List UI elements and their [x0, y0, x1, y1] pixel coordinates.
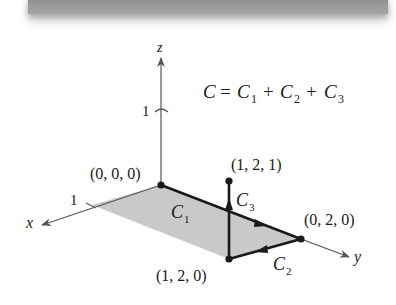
point-label-origin: (0, 0, 0) — [90, 165, 141, 183]
c3-arrow-icon — [225, 198, 233, 210]
svg-text:2: 2 — [286, 265, 292, 277]
curve-label-c2: C 2 — [273, 254, 292, 277]
point-label-020: (0, 2, 0) — [304, 211, 355, 229]
point-label-121: (1, 2, 1) — [231, 156, 282, 174]
svg-text:+: + — [306, 81, 317, 102]
y-axis — [301, 239, 349, 257]
point-origin — [157, 181, 164, 188]
svg-text:3: 3 — [338, 92, 344, 106]
svg-text:3: 3 — [249, 201, 255, 213]
svg-text:1: 1 — [251, 92, 257, 106]
x-tick-label: 1 — [70, 192, 78, 208]
z-axis-label: z — [156, 40, 163, 55]
svg-text:C: C — [324, 81, 337, 102]
svg-text:C: C — [171, 202, 184, 222]
point-121 — [225, 177, 232, 184]
svg-text:C: C — [236, 190, 249, 210]
y-axis-label: y — [352, 248, 362, 266]
z-tick-label: 1 — [142, 103, 150, 119]
c1-arrow-icon — [254, 219, 267, 227]
svg-text:=: = — [220, 81, 231, 102]
svg-text:C: C — [280, 81, 293, 102]
svg-text:2: 2 — [294, 92, 300, 106]
svg-text:C: C — [237, 81, 250, 102]
svg-text:+: + — [263, 81, 274, 102]
point-label-120: (1, 2, 0) — [156, 267, 207, 285]
svg-text:C: C — [203, 81, 216, 102]
x-axis-label: x — [25, 214, 33, 231]
curve-label-c3: C 3 — [236, 190, 255, 213]
svg-text:C: C — [273, 254, 286, 274]
point-120 — [225, 255, 232, 262]
svg-text:1: 1 — [184, 213, 190, 225]
equation: C = C 1 + C 2 + C 3 — [203, 81, 344, 106]
3d-path-diagram: z 1 1 x y (0, 0, 0) (1, 2, 1) (0, 2, 0) … — [0, 0, 396, 305]
point-020 — [297, 235, 304, 242]
